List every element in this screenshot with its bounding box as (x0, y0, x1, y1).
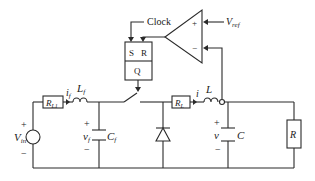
opamp-minus: − (192, 43, 197, 53)
clock-label: Clock (147, 16, 171, 27)
cf-capacitor (92, 102, 106, 168)
vf-minus: − (84, 144, 90, 155)
clock-arrow-icon (128, 37, 134, 42)
v-label: v (214, 129, 219, 141)
opamp-plus: + (192, 18, 197, 28)
latch-q: Q (134, 66, 141, 76)
c-capacitor (221, 102, 235, 168)
cf-label: Cf (107, 130, 117, 144)
latch-s: S (129, 48, 134, 58)
v-plus: + (214, 117, 220, 128)
vref-arrow-icon (203, 19, 208, 25)
i-arrow-icon (193, 99, 197, 105)
c-label: C (237, 129, 245, 141)
lf-label: Lf (76, 82, 86, 96)
diode (156, 102, 170, 168)
vf-plus: + (84, 118, 90, 129)
vin-plus: + (21, 119, 27, 130)
i-label: i (196, 88, 199, 99)
lf-inductor (73, 98, 87, 102)
switch (124, 93, 172, 102)
v-minus: − (215, 144, 221, 155)
r-label: R (289, 129, 296, 140)
vin-minus: − (21, 148, 27, 159)
latch-r: R (141, 48, 147, 58)
q-arrow-icon (135, 87, 141, 92)
vin-label: Vin (14, 131, 27, 145)
if-label: if (66, 87, 72, 100)
vref-label: Vref (226, 16, 241, 29)
sense-node (220, 100, 225, 105)
circuit-diagram: + Vin − RL1 if Lf + vf − Cf S R Q Clock … (0, 0, 315, 181)
l-label: L (205, 83, 212, 95)
l-inductor (204, 98, 218, 102)
r-arrow-icon (140, 37, 146, 42)
feedback-arrow-icon (203, 45, 208, 51)
vin-source (26, 102, 43, 168)
vf-label: vf (83, 130, 91, 144)
